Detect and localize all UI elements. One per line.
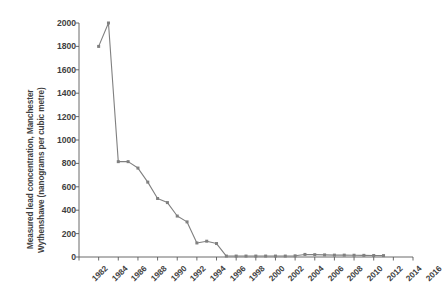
data-point-marker (274, 255, 277, 258)
data-point-marker (323, 253, 326, 256)
data-point-marker (245, 255, 248, 258)
data-point-marker (353, 254, 356, 257)
data-point-marker (362, 254, 365, 257)
axis-tick-marks (76, 23, 414, 261)
data-point-marker (156, 197, 159, 200)
data-point-marker (225, 255, 228, 258)
data-point-marker (127, 160, 130, 163)
data-series-markers (97, 22, 385, 258)
data-point-marker (136, 167, 139, 170)
data-series-line (99, 23, 384, 256)
data-point-marker (166, 201, 169, 204)
data-point-marker (235, 255, 238, 258)
data-point-marker (264, 255, 267, 258)
data-point-marker (343, 254, 346, 257)
data-point-marker (313, 253, 316, 256)
data-point-marker (294, 254, 297, 257)
axis-lines (79, 23, 413, 257)
data-point-marker (333, 254, 336, 257)
data-point-marker (215, 242, 218, 245)
data-point-marker (186, 220, 189, 223)
data-point-marker (372, 254, 375, 257)
data-point-marker (284, 255, 287, 258)
data-point-marker (195, 241, 198, 244)
data-point-marker (97, 45, 100, 48)
data-point-marker (176, 215, 179, 218)
data-point-marker (107, 22, 110, 25)
data-point-marker (382, 254, 385, 257)
data-point-marker (303, 253, 306, 256)
data-point-marker (117, 160, 120, 163)
data-point-marker (254, 255, 257, 258)
data-point-marker (205, 240, 208, 243)
data-point-marker (146, 181, 149, 184)
